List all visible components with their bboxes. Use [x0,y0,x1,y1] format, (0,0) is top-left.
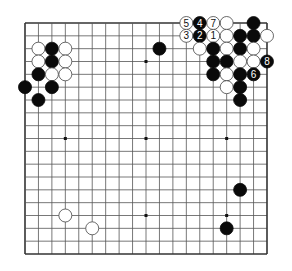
white-stone [220,42,233,55]
black-stone [45,55,58,68]
black-stone [234,183,247,196]
move-number-label: 6 [251,69,257,80]
white-stone [234,55,247,68]
white-stone: 3 [180,29,193,42]
star-point [145,60,148,63]
black-stone [234,42,247,55]
white-stone [32,55,45,68]
black-stone [32,68,45,81]
move-number-label: 2 [197,30,203,41]
black-stone [32,94,45,107]
star-point [64,137,67,140]
black-stone [207,42,220,55]
white-stone [59,42,72,55]
black-stone [207,55,220,68]
white-stone [32,42,45,55]
white-stone: 7 [207,17,220,30]
star-point [145,214,148,217]
white-stone [220,29,233,42]
white-stone [193,42,206,55]
black-stone [247,29,260,42]
move-number-label: 5 [184,18,190,29]
black-stone: 2 [193,29,206,42]
white-stone [59,68,72,81]
black-stone: 4 [193,17,206,30]
black-stone [220,222,233,235]
black-stone [153,42,166,55]
go-board: 54732186 [0,0,292,271]
black-stone: 8 [261,55,274,68]
black-stone [234,81,247,94]
black-stone [220,55,233,68]
black-stone [19,81,32,94]
white-stone [86,222,99,235]
black-stone [234,29,247,42]
black-stone [45,81,58,94]
black-stone [234,68,247,81]
white-stone [220,81,233,94]
star-point [145,137,148,140]
white-stone [261,29,274,42]
star-point [225,214,228,217]
white-stone: 1 [207,29,220,42]
move-number-label: 8 [264,56,270,67]
move-number-label: 4 [197,18,203,29]
white-stone [220,68,233,81]
black-stone [234,94,247,107]
white-stone [247,42,260,55]
white-stone [59,209,72,222]
move-number-label: 7 [210,18,216,29]
move-number-label: 3 [184,30,190,41]
white-stone [247,55,260,68]
black-stone [207,68,220,81]
white-stone [59,55,72,68]
black-stone [45,42,58,55]
black-stone: 6 [247,68,260,81]
white-stone [45,68,58,81]
star-point [225,137,228,140]
black-stone [247,17,260,30]
white-stone: 5 [180,17,193,30]
white-stone [220,17,233,30]
move-number-label: 1 [210,30,216,41]
